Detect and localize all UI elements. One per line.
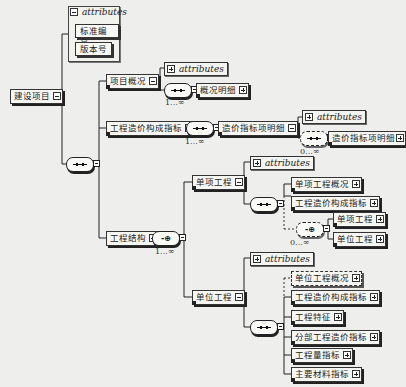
element-marker (291, 378, 295, 382)
expand-icon[interactable] (239, 86, 247, 94)
attributes-label: attributes (317, 112, 362, 122)
collapse-icon[interactable] (70, 8, 78, 16)
expand-icon[interactable] (167, 65, 175, 73)
element-label: 工程特征 (295, 312, 331, 322)
unit-project-sequence[interactable] (250, 320, 278, 335)
collapse-icon[interactable] (93, 160, 100, 167)
collapse-icon[interactable] (288, 124, 296, 132)
element-label: 工程结构 (110, 233, 146, 243)
choice-icon: -⊕ (158, 234, 174, 243)
expand-icon[interactable] (343, 351, 351, 359)
collapse-icon[interactable] (149, 77, 157, 85)
expand-icon[interactable] (370, 333, 378, 341)
unit-project-attributes[interactable]: attributes (250, 252, 314, 266)
element-single-project-overview[interactable]: 单项工程概况 (291, 177, 362, 192)
element-nested-single-project[interactable]: 单项工程 (333, 212, 386, 227)
cardinality-label: 0...∞ (290, 238, 309, 247)
choice-icon: -⊕ (302, 225, 318, 234)
element-marker (196, 94, 200, 98)
cost-index-item-optional-sequence[interactable] (300, 131, 328, 146)
element-cost-index-item-detail-child[interactable]: 造价指标项明细 (328, 131, 406, 146)
element-marker (333, 223, 337, 227)
collapse-icon[interactable] (235, 293, 243, 301)
element-cost-index-item-detail[interactable]: 造价指标项明细 (218, 121, 298, 136)
element-unit-cost-composition[interactable]: 工程造价构成指标 (291, 290, 380, 305)
attribute-standard-number[interactable]: 标准编号 (75, 24, 119, 38)
element-marker (106, 85, 110, 89)
attributes-label: attributes (265, 254, 310, 264)
attributes-label: attributes (179, 64, 224, 74)
root-sequence-compositor[interactable] (66, 157, 94, 172)
element-label: 工程造价构成指标 (295, 198, 367, 208)
element-marker (291, 207, 295, 211)
single-project-attributes[interactable]: attributes (250, 156, 314, 170)
expand-icon[interactable] (396, 134, 404, 142)
element-label: 分部工程造价指标 (295, 332, 367, 342)
expand-icon[interactable] (253, 159, 261, 167)
collapse-icon[interactable] (53, 92, 61, 100)
project-overview-attributes[interactable]: attributes (164, 62, 228, 76)
project-overview-sequence[interactable] (164, 83, 192, 98)
expand-icon[interactable] (352, 370, 360, 378)
attribute-version[interactable]: 版本号 (75, 42, 112, 56)
element-marker (333, 243, 337, 247)
expand-icon[interactable] (253, 255, 261, 263)
cardinality-label: 1...∞ (165, 98, 184, 107)
element-single-project[interactable]: 单项工程 (192, 175, 245, 190)
element-marker (291, 188, 295, 192)
element-unit-project-overview[interactable]: 单位工程概况 (291, 271, 362, 286)
element-sub-project-cost-index[interactable]: 分部工程造价指标 (291, 330, 380, 345)
element-nested-unit-project[interactable]: 单位工程 (333, 232, 386, 247)
single-project-sequence[interactable] (250, 197, 278, 212)
element-label: 建设项目 (14, 91, 50, 101)
expand-icon[interactable] (376, 215, 384, 223)
element-marker (192, 186, 196, 190)
element-overview-detail[interactable]: 概况明细 (196, 83, 249, 98)
expand-icon[interactable] (352, 180, 360, 188)
element-label: 单项工程 (337, 214, 373, 224)
element-label: 概况明细 (200, 85, 236, 95)
element-quantity-index[interactable]: 工程量指标 (291, 348, 353, 363)
cost-index-item-attributes[interactable]: attributes (302, 110, 366, 124)
element-marker (106, 132, 110, 136)
expand-icon[interactable] (370, 199, 378, 207)
element-label: 单项工程概况 (295, 179, 349, 189)
expand-icon[interactable] (370, 293, 378, 301)
element-main-material-index[interactable]: 主要材料指标 (291, 367, 362, 382)
element-label: 项目概况 (110, 76, 146, 86)
element-label: 工程量指标 (295, 350, 340, 360)
element-label: 造价指标项明细 (222, 123, 285, 133)
element-project-overview[interactable]: 项目概况 (106, 74, 159, 89)
element-label: 单项工程 (196, 177, 232, 187)
element-marker (218, 132, 222, 136)
collapse-icon[interactable] (179, 234, 186, 241)
sequence-icon (257, 204, 271, 205)
expand-icon[interactable] (376, 235, 384, 243)
element-construction-project[interactable]: 建设项目 (10, 89, 63, 104)
project-structure-choice[interactable]: -⊕ (152, 231, 180, 246)
collapse-icon[interactable] (277, 200, 284, 207)
cost-composition-sequence[interactable] (186, 121, 214, 136)
element-marker (328, 142, 332, 146)
collapse-icon[interactable] (235, 178, 243, 186)
element-cost-composition-index[interactable]: 工程造价构成指标 (106, 121, 195, 136)
element-label: 单位工程概况 (295, 273, 349, 283)
element-unit-project[interactable]: 单位工程 (192, 290, 245, 305)
expand-icon[interactable] (352, 274, 360, 282)
collapse-icon[interactable] (323, 225, 330, 232)
attributes-header[interactable]: attributes (68, 6, 130, 18)
expand-icon[interactable] (305, 113, 313, 121)
expand-icon[interactable] (334, 313, 342, 321)
element-engineering-features[interactable]: 工程特征 (291, 310, 344, 325)
root-attributes-group: attributes 标准编号 版本号 (68, 6, 120, 62)
element-label: 工程造价构成指标 (295, 292, 367, 302)
single-project-optional-choice[interactable]: -⊕ (296, 222, 324, 237)
element-marker (291, 301, 295, 305)
element-label: 主要材料指标 (295, 369, 349, 379)
collapse-icon[interactable] (277, 323, 284, 330)
element-marker (291, 341, 295, 345)
element-single-project-cost-composition[interactable]: 工程造价构成指标 (291, 196, 380, 211)
element-label: 单位工程 (196, 292, 232, 302)
